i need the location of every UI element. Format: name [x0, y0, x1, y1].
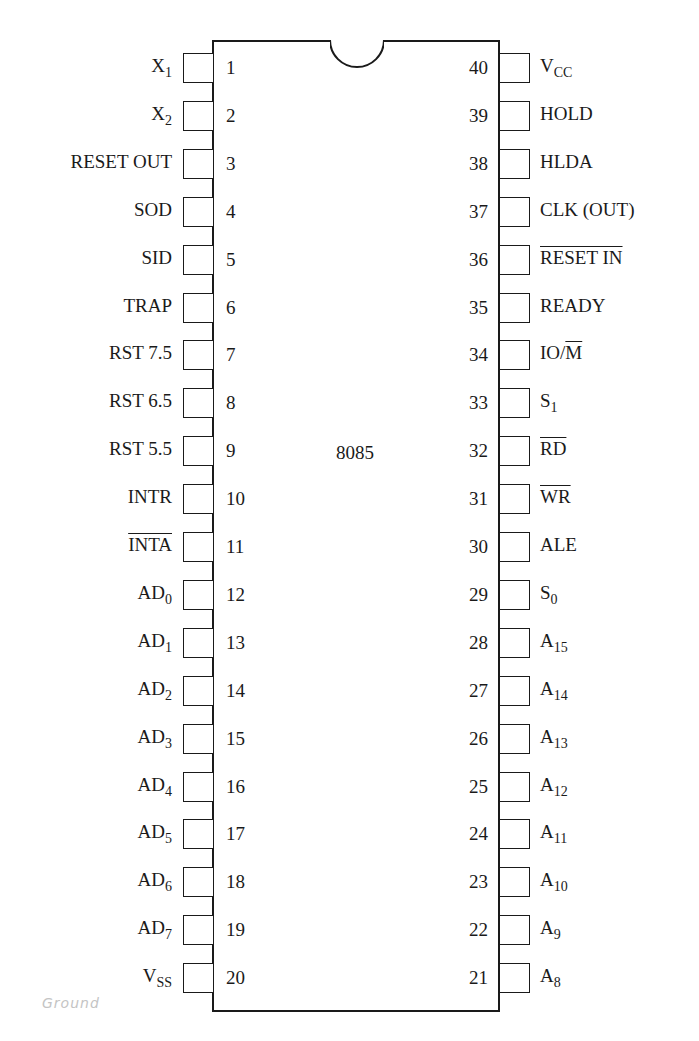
pin-2-lead — [183, 101, 213, 131]
pin-31-number: 31 — [448, 484, 488, 514]
pin-22-lead — [500, 915, 530, 945]
pin-14-label: AD2 — [138, 674, 172, 704]
pin-9-lead — [183, 436, 213, 466]
pin-22-label: A9 — [540, 913, 561, 943]
pin-1-label: X1 — [151, 51, 172, 81]
pin-25-label: A12 — [540, 770, 568, 800]
pin-6-number: 6 — [226, 293, 236, 323]
pin-34-lead — [500, 340, 530, 370]
pin-20-lead — [183, 963, 213, 993]
pin-33-label: S1 — [540, 386, 558, 416]
pin-5-label: SID — [141, 243, 172, 273]
pin-12-number: 12 — [226, 580, 245, 610]
pin-35-lead — [500, 293, 530, 323]
pin-3-lead — [183, 149, 213, 179]
pin-14-lead — [183, 676, 213, 706]
pin-20-number: 20 — [226, 963, 245, 993]
pin-29-lead — [500, 580, 530, 610]
pin-2-number: 2 — [226, 101, 236, 131]
pin-37-number: 37 — [448, 197, 488, 227]
pin-17-label: AD5 — [138, 817, 172, 847]
pin-8-number: 8 — [226, 388, 236, 418]
pin-16-label: AD4 — [138, 770, 172, 800]
pin-31-lead — [500, 484, 530, 514]
pin-24-number: 24 — [448, 819, 488, 849]
pin-39-lead — [500, 101, 530, 131]
pin-2-label: X2 — [151, 99, 172, 129]
pin-21-lead — [500, 963, 530, 993]
pin-10-lead — [183, 484, 213, 514]
pin-40-number: 40 — [448, 53, 488, 83]
pin-26-number: 26 — [448, 724, 488, 754]
pin-16-number: 16 — [226, 772, 245, 802]
pin-8-label: RST 6.5 — [109, 386, 172, 416]
pin-34-number: 34 — [448, 340, 488, 370]
pin-11-lead — [183, 532, 213, 562]
pin-10-label: INTR — [128, 482, 172, 512]
pin-4-lead — [183, 197, 213, 227]
chip-name-label: 8085 — [336, 442, 374, 464]
pin-23-number: 23 — [448, 867, 488, 897]
pin-37-label: CLK (OUT) — [540, 195, 634, 225]
pin-15-label: AD3 — [138, 722, 172, 752]
pin-9-number: 9 — [226, 436, 236, 466]
pin-5-number: 5 — [226, 245, 236, 275]
pin-36-label: RESET IN — [540, 243, 623, 273]
pin-7-label: RST 7.5 — [109, 338, 172, 368]
pin-4-label: SOD — [134, 195, 172, 225]
pin-32-number: 32 — [448, 436, 488, 466]
pin-7-lead — [183, 340, 213, 370]
pin-19-lead — [183, 915, 213, 945]
pin-9-label: RST 5.5 — [109, 434, 172, 464]
pin-35-number: 35 — [448, 293, 488, 323]
pin-19-number: 19 — [226, 915, 245, 945]
pin-35-label: READY — [540, 291, 605, 321]
pin-28-label: A15 — [540, 626, 568, 656]
pin-3-number: 3 — [226, 149, 236, 179]
pin-22-number: 22 — [448, 915, 488, 945]
pin-16-lead — [183, 772, 213, 802]
pin-15-lead — [183, 724, 213, 754]
chip-body — [212, 40, 500, 1012]
pin-36-lead — [500, 245, 530, 275]
pin-13-lead — [183, 628, 213, 658]
pin-18-label: AD6 — [138, 865, 172, 895]
pin-32-lead — [500, 436, 530, 466]
pin-17-number: 17 — [226, 819, 245, 849]
pin-6-label: TRAP — [123, 291, 172, 321]
pin-1-lead — [183, 53, 213, 83]
pin-17-lead — [183, 819, 213, 849]
pin-25-lead — [500, 772, 530, 802]
pin-18-lead — [183, 867, 213, 897]
pin-27-lead — [500, 676, 530, 706]
pin-23-lead — [500, 867, 530, 897]
pin-39-number: 39 — [448, 101, 488, 131]
pin-11-label: INTA — [128, 530, 172, 560]
pin-7-number: 7 — [226, 340, 236, 370]
pin-27-label: A14 — [540, 674, 568, 704]
orientation-notch — [330, 40, 384, 70]
pin-19-label: AD7 — [138, 913, 172, 943]
handwritten-note: Ground — [42, 995, 100, 1011]
pin-33-lead — [500, 388, 530, 418]
pin-29-number: 29 — [448, 580, 488, 610]
pin-13-number: 13 — [226, 628, 245, 658]
pin-25-number: 25 — [448, 772, 488, 802]
pin-5-lead — [183, 245, 213, 275]
pin-12-lead — [183, 580, 213, 610]
pin-21-label: A8 — [540, 961, 561, 991]
pin-38-label: HLDA — [540, 147, 593, 177]
pin-40-lead — [500, 53, 530, 83]
pin-15-number: 15 — [226, 724, 245, 754]
pin-27-number: 27 — [448, 676, 488, 706]
pin-4-number: 4 — [226, 197, 236, 227]
pinout-diagram: 8085 1X12X23RESET OUT4SOD5SID6TRAP7RST 7… — [0, 0, 699, 1041]
pin-11-number: 11 — [226, 532, 244, 562]
pin-38-lead — [500, 149, 530, 179]
pin-31-label: WR — [540, 482, 571, 512]
pin-8-lead — [183, 388, 213, 418]
pin-34-label: IO/M — [540, 338, 582, 368]
pin-6-lead — [183, 293, 213, 323]
pin-12-label: AD0 — [138, 578, 172, 608]
pin-32-label: RD — [540, 434, 566, 464]
